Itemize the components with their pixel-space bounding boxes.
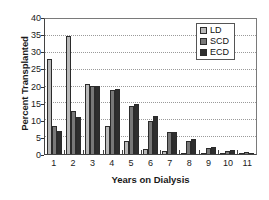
legend-label: SCD	[210, 37, 229, 46]
x-tick-label: 10	[218, 158, 237, 168]
bar-group	[141, 19, 160, 154]
bar-ecd-year-11[interactable]	[249, 153, 254, 154]
x-axis-title: Years on Dialysis	[44, 174, 257, 185]
x-axis-tick-labels: 1234567891011	[44, 158, 257, 168]
bar-ecd-year-1[interactable]	[57, 131, 62, 154]
y-axis-tick-labels: 0510152025303540	[20, 13, 41, 160]
legend-swatch-icon	[200, 38, 207, 45]
bar-ecd-year-2[interactable]	[76, 117, 81, 154]
x-tick-label: 9	[199, 158, 218, 168]
y-tick-label: 5	[20, 133, 41, 142]
legend-swatch-icon	[200, 49, 207, 56]
x-tick-label: 2	[63, 158, 82, 168]
x-tick-label: 8	[180, 158, 199, 168]
bar-ecd-year-5[interactable]	[134, 104, 139, 154]
legend-label: LD	[210, 26, 222, 35]
bar-group	[122, 19, 141, 154]
x-tick-label: 5	[121, 158, 140, 168]
bar-group	[237, 19, 256, 154]
y-tick-label: 0	[20, 151, 41, 160]
bar-ecd-year-6[interactable]	[153, 116, 158, 154]
legend-item-ld[interactable]: LD	[200, 26, 229, 35]
y-tick-label: 15	[20, 99, 41, 108]
y-tick-label: 30	[20, 48, 41, 57]
y-tick-label: 35	[20, 31, 41, 40]
bar-group	[45, 19, 64, 154]
legend: LDSCDECD	[196, 23, 235, 60]
bar-group	[160, 19, 179, 154]
x-tick-label: 3	[83, 158, 102, 168]
bar-ecd-year-4[interactable]	[115, 89, 120, 154]
bar-group	[103, 19, 122, 154]
bar-ecd-year-3[interactable]	[95, 86, 100, 154]
bar-group	[83, 19, 102, 154]
x-tick-label: 11	[238, 158, 257, 168]
legend-swatch-icon	[200, 27, 207, 34]
bar-ecd-year-10[interactable]	[230, 150, 235, 154]
bar-ecd-year-9[interactable]	[211, 147, 216, 154]
y-tick-label: 20	[20, 82, 41, 91]
legend-label: ECD	[210, 48, 229, 57]
bar-group	[64, 19, 83, 154]
legend-item-ecd[interactable]: ECD	[200, 48, 229, 57]
x-tick-label: 7	[160, 158, 179, 168]
y-tick-label: 10	[20, 116, 41, 125]
bar-ecd-year-8[interactable]	[191, 139, 196, 154]
bar-chart-figure: Percent Transplanted 0510152025303540 12…	[0, 0, 269, 200]
x-tick-label: 4	[102, 158, 121, 168]
y-tick-mark	[41, 155, 44, 156]
y-tick-label: 25	[20, 65, 41, 74]
bar-ecd-year-7[interactable]	[172, 132, 177, 154]
y-tick-label: 40	[20, 14, 41, 23]
legend-item-scd[interactable]: SCD	[200, 37, 229, 46]
x-tick-label: 1	[44, 158, 63, 168]
x-tick-label: 6	[141, 158, 160, 168]
